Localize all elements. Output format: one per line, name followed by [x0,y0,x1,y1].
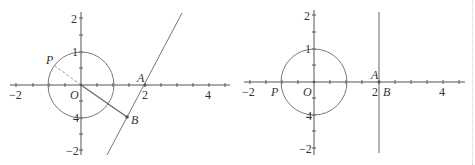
right-x-label-4: 4 [439,85,445,99]
left-segment-ob [81,85,127,117]
right-label-a: A [370,68,379,82]
right-y-label-neg2: −2 [299,142,312,156]
left-y-label-2: 2 [71,12,77,26]
left-x-label-2: 2 [142,88,148,102]
left-label-b: B [131,113,139,127]
right-label-p: P [270,85,279,99]
left-label-o: O [70,88,79,102]
left-y-label-1: 1 [72,45,78,59]
right-figure: −2 2 4 2 1 4 −2 P O A B [242,9,465,156]
left-x-label-4: 4 [205,88,211,102]
left-point-b [125,115,129,119]
left-y-label-neg2: −2 [66,144,79,158]
left-point-o [80,84,83,87]
left-label-a: A [136,71,145,85]
right-y-label-2: 2 [304,9,310,23]
left-dashed-op [55,66,81,85]
right-x-label-neg2: −2 [242,85,255,99]
right-label-o: O [303,85,312,99]
left-x-label-neg2: −2 [9,88,22,102]
left-figure: −2 2 4 2 1 4 −2 P O A B [9,12,230,158]
figure-canvas: −2 2 4 2 1 4 −2 P O A B [0,0,475,165]
right-y-label-neg1: 4 [306,109,312,123]
right-point-o [313,81,316,84]
left-label-p: P [45,53,54,67]
right-y-label-1: 1 [305,42,311,56]
right-label-b: B [383,85,391,99]
right-x-label-2: 2 [372,85,378,99]
left-y-label-neg1: 4 [73,111,79,125]
